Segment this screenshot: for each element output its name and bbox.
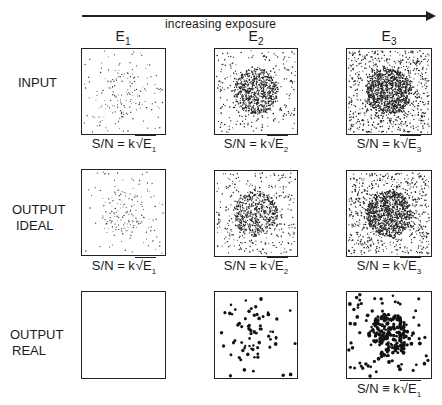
stipple-dots — [215, 49, 297, 134]
column-header-e1: E1 — [103, 28, 143, 47]
column-header-e2: E2 — [236, 28, 276, 47]
caption-ideal-e1: S/N = k√E1 — [74, 258, 174, 276]
row-label-output-ideal: OUTPUTIDEAL — [12, 202, 65, 234]
stipple-dots — [347, 171, 431, 256]
caption-input-e1: S/N = k√E1 — [74, 136, 174, 154]
arrow-head-icon — [426, 11, 436, 21]
stipple-dots — [82, 170, 165, 255]
caption-input-e2: S/N = k√E2 — [206, 136, 306, 154]
caption-input-e3: S/N = k√E3 — [339, 136, 439, 154]
row-label-input: INPUT — [18, 75, 57, 91]
panel-input-e2 — [214, 48, 298, 135]
panel-ideal-e3 — [346, 170, 432, 257]
stipple-dots — [82, 49, 165, 134]
panel-input-e1 — [81, 48, 166, 135]
stipple-dots — [347, 49, 431, 134]
stipple-dots — [82, 292, 165, 378]
stipple-dots — [347, 292, 431, 378]
row-label-output-real: OUTPUTREAL — [10, 327, 63, 359]
panel-ideal-e2 — [214, 170, 298, 257]
panel-real-e3 — [346, 291, 432, 379]
panel-real-e1 — [81, 291, 166, 379]
column-header-e3: E3 — [369, 28, 409, 47]
stipple-dots — [215, 171, 297, 256]
stipple-dots — [215, 292, 297, 378]
caption-real-e3: S/N ≡ k√E1 — [339, 381, 439, 399]
panel-input-e3 — [346, 48, 432, 135]
panel-ideal-e1 — [81, 169, 166, 256]
caption-ideal-e2: S/N = k√E2 — [206, 258, 306, 276]
caption-ideal-e3: S/N = k√E3 — [339, 258, 439, 276]
panel-real-e2 — [214, 291, 298, 379]
